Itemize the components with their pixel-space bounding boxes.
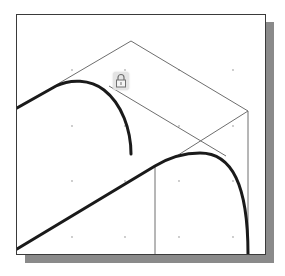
sketch-canvas[interactable] bbox=[16, 14, 266, 255]
sketch-drawing bbox=[17, 15, 265, 254]
profile-curves bbox=[17, 81, 248, 254]
apex-right-edge[interactable] bbox=[131, 41, 248, 111]
lock-icon bbox=[113, 72, 129, 90]
lock-constraint-badge[interactable] bbox=[113, 72, 129, 90]
right-vertex-diagonal[interactable] bbox=[175, 111, 248, 157]
construction-lines bbox=[56, 41, 248, 254]
left-arc[interactable] bbox=[17, 81, 131, 154]
long-line-with-right-arc[interactable] bbox=[17, 153, 248, 254]
